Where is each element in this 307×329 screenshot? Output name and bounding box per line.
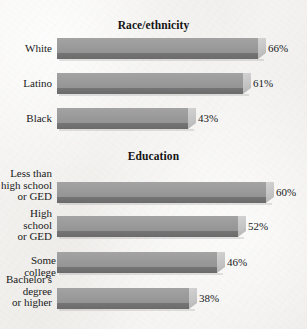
bar-drop-shadow: [59, 237, 244, 239]
bar-end-cap: [238, 216, 246, 237]
bar-end-cap: [258, 38, 266, 59]
education-panel-title: Education: [0, 150, 307, 162]
bar-row-latino: Latino 61%: [0, 73, 307, 103]
bar-value-white: 66%: [268, 42, 288, 54]
bar-value-some-college: 46%: [227, 256, 247, 268]
chart-page: Race/ethnicity White 66% Latino 61% Blac…: [0, 0, 307, 329]
bar-drop-shadow: [59, 273, 223, 275]
bar-label-bachelors-degree: Bachelor's degree or higher: [0, 274, 52, 309]
bar-row-high-school: High school or GED 52%: [0, 216, 307, 246]
bar-value-black: 43%: [198, 112, 218, 124]
bar-label-white: White: [0, 43, 52, 55]
label-line-2: or GED: [0, 231, 52, 243]
bar-end-cap: [217, 252, 225, 273]
label-line-1: Less than: [0, 168, 52, 180]
bar-row-white: White 66%: [0, 38, 307, 68]
bar-row-black: Black 43%: [0, 108, 307, 138]
bar-white: [57, 38, 258, 60]
bar-label-high-school: High school or GED: [0, 208, 52, 243]
bar-top-face: [57, 108, 188, 123]
bar-value-bachelors-degree: 38%: [199, 292, 219, 304]
bar-black: [57, 108, 188, 130]
bar-end-cap: [189, 288, 197, 309]
label-line-1: Bachelor's: [0, 274, 52, 286]
bar-drop-shadow: [59, 129, 194, 131]
bar-top-face: [57, 73, 243, 88]
bar-some-college: [57, 252, 217, 274]
bar-end-cap: [243, 73, 251, 94]
bar-value-latino: 61%: [253, 77, 273, 89]
bar-label-latino: Latino: [0, 78, 52, 90]
bar-top-face: [57, 288, 189, 303]
bar-top-face: [57, 216, 238, 231]
label-line-3: or higher: [0, 297, 52, 309]
bar-drop-shadow: [59, 203, 272, 205]
bar-drop-shadow: [59, 59, 264, 61]
bar-drop-shadow: [59, 309, 195, 311]
bar-label-less-than-high-school: Less than high school or GED: [0, 168, 52, 203]
bar-top-face: [57, 38, 258, 53]
bar-value-high-school: 52%: [248, 220, 268, 232]
bar-row-bachelors-degree: Bachelor's degree or higher 38%: [0, 288, 307, 318]
label-line-3: or GED: [0, 191, 52, 203]
race-ethnicity-panel-title: Race/ethnicity: [0, 19, 307, 31]
bar-top-face: [57, 252, 217, 267]
bar-value-less-than-high-school: 60%: [276, 186, 296, 198]
bar-drop-shadow: [59, 94, 249, 96]
label-line-1: High school: [0, 208, 52, 231]
bar-bachelors-degree: [57, 288, 189, 310]
bar-top-face: [57, 182, 266, 197]
bar-latino: [57, 73, 243, 95]
bar-end-cap: [266, 182, 274, 203]
bar-label-black: Black: [0, 113, 52, 125]
bar-end-cap: [188, 108, 196, 129]
bar-high-school: [57, 216, 238, 238]
bar-less-than-high-school: [57, 182, 266, 204]
